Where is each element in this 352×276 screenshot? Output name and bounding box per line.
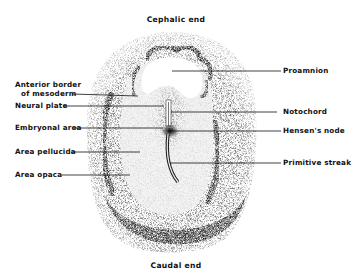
label-area-pellucida: Area pellucida xyxy=(15,147,76,156)
caudal-end-label: Caudal end xyxy=(151,261,202,270)
label-neural-plate: Neural plate xyxy=(15,101,68,110)
label-anterior-border-of-mesoderm: Anterior border of mesoderm xyxy=(15,80,81,98)
label-proamnion: Proamnion xyxy=(283,66,329,75)
notochord-structure xyxy=(166,100,171,126)
label-anterior-border-line2: of mesoderm xyxy=(15,89,81,98)
label-notochord: Notochord xyxy=(283,107,327,116)
label-area-opaca: Area opaca xyxy=(15,170,62,179)
label-primitive-streak: Primitive streak xyxy=(283,158,351,167)
embryo-diagram: Cephalic end Caudal end Anterior border … xyxy=(0,0,352,276)
embryo-illustration xyxy=(0,0,352,276)
cephalic-end-label: Cephalic end xyxy=(147,15,206,24)
label-anterior-border-line1: Anterior border xyxy=(15,80,81,89)
label-hensens-node: Hensen's node xyxy=(283,126,345,135)
label-embryonal-area: Embryonal area xyxy=(15,123,82,132)
